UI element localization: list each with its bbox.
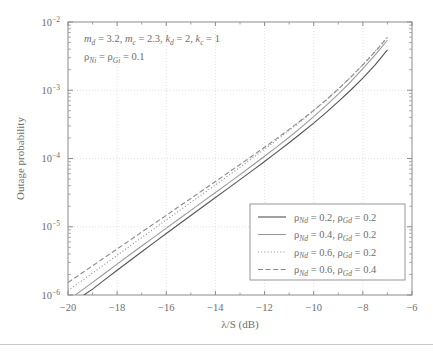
y-tick-label: 10−4 <box>42 151 61 164</box>
x-tick-label: −18 <box>109 302 125 313</box>
y-tick-label: 10−3 <box>42 83 61 96</box>
y-tick-label: 10−5 <box>42 219 61 232</box>
x-tick-label: −6 <box>406 302 417 313</box>
x-tick-label: −10 <box>306 302 322 313</box>
y-tick-label: 10−6 <box>42 288 61 301</box>
x-tick-label: −14 <box>207 302 224 313</box>
x-axis-label: λ/S (dB) <box>221 318 259 331</box>
x-tick-label: −12 <box>256 302 272 313</box>
outage-probability-chart: −20−18−16−14−12−10−8−610−610−510−410−310… <box>0 0 433 356</box>
figure-bottom-rule <box>0 344 433 345</box>
annotation-line-1: md = 3.2, mc = 2.3, kd = 2, kc = 1 <box>84 33 220 47</box>
y-tick-label: 10−2 <box>42 15 61 28</box>
y-axis-label: Outage probability <box>14 117 26 200</box>
annotation-line-2: ρNi = ρGi = 0.1 <box>84 51 145 65</box>
x-tick-label: −16 <box>158 302 174 313</box>
x-tick-label: −8 <box>357 302 368 313</box>
figure: −20−18−16−14−12−10−8−610−610−510−410−310… <box>0 0 433 356</box>
x-tick-label: −20 <box>60 302 76 313</box>
